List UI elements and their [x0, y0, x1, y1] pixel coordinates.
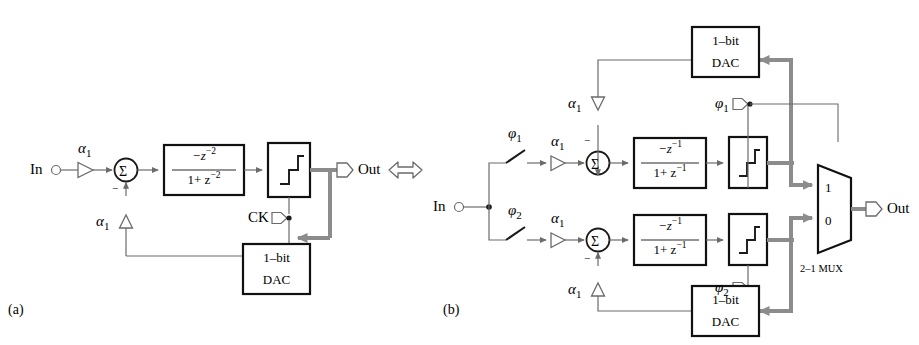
panel-b-feedback-gain-bottom[interactable] [592, 283, 693, 311]
mux-label: 2–1 MUX [800, 258, 843, 276]
panel-b-input-port[interactable] [455, 163, 507, 240]
panel-b-loop-filter-denominator-top: 1+ z−1 [634, 163, 706, 181]
figure-container: In α1 Σ − α1 −z−2 1+ z−2 CK 1–bit DAC Ou… [0, 0, 919, 345]
panel-b-clock-label-top: φ1 [715, 94, 729, 114]
panel-b-dac-label-top-line2: DAC [692, 53, 759, 71]
mux-input-1-label: 1 [825, 178, 832, 196]
panel-b-summing-negative-sign-top: − [584, 130, 590, 148]
panel-a-feedback-gain-label: α1 [96, 212, 109, 232]
panel-b-input-gain-label-bottom: α1 [551, 209, 564, 229]
panel-a-caption: (a) [8, 300, 24, 318]
panel-b-summing-negative-sign-bottom: − [584, 248, 590, 266]
panel-a-quantizer [268, 143, 310, 244]
panel-b-input-gain-top[interactable] [551, 156, 584, 171]
panel-a-input-label: In [30, 160, 43, 178]
panel-a-summing-symbol: Σ [119, 162, 127, 180]
panel-a-loop-filter-numerator: −z−2 [164, 146, 244, 164]
panel-b-input-gain-bottom[interactable] [551, 233, 584, 248]
block-diagram-svg [0, 0, 919, 345]
panel-b-input-gain-label-top: α1 [551, 132, 564, 152]
mux-input-0-label: 0 [825, 211, 832, 229]
panel-a-input-port[interactable] [52, 166, 79, 175]
panel-b-dac-label-top-line1: 1–bit [692, 31, 759, 49]
panel-a-summing-negative-sign: − [112, 178, 118, 196]
panel-b-output-label: Out [887, 199, 910, 217]
panel-b-input-label: In [433, 197, 446, 215]
panel-b-loop-filter-numerator-top: −z−1 [634, 139, 706, 157]
panel-a-dac-label-line1: 1–bit [243, 248, 310, 266]
panel-b-loop-filter-denominator-bottom: 1+ z−1 [634, 240, 706, 258]
equivalence-arrow-icon [389, 162, 422, 178]
panel-a-output-label: Out [358, 160, 381, 178]
panel-b-feedback-gain-label-top: α1 [568, 94, 581, 114]
panel-a-dac-label-line2: DAC [243, 270, 310, 288]
panel-b-switch-label-top: φ1 [508, 124, 522, 144]
panel-b-feedback-gain-top[interactable] [592, 60, 693, 110]
panel-b-quantizer-top [729, 104, 767, 188]
panel-b-clock-port-top[interactable] [733, 99, 838, 143]
panel-b-dac-label-bottom-line1: 1–bit [692, 290, 759, 308]
panel-b-caption: (b) [443, 300, 459, 318]
panel-b-switch-top[interactable] [506, 150, 546, 163]
panel-b-quantizer-bottom [729, 214, 767, 288]
panel-a-loop-filter-denominator: 1+ z−2 [164, 170, 244, 188]
panel-a-output-port[interactable] [337, 163, 353, 177]
panel-b-switch-label-bottom: φ2 [508, 201, 522, 221]
panel-b-dac-label-bottom-line2: DAC [692, 312, 759, 330]
panel-b-feedback-gain-label-bottom: α1 [568, 280, 581, 300]
panel-b [455, 27, 883, 336]
panel-a-input-gain[interactable] [78, 163, 112, 178]
panel-b-loop-filter-numerator-bottom: −z−1 [634, 216, 706, 234]
panel-b-summing-symbol-top: Σ [591, 155, 599, 173]
panel-b-switch-bottom[interactable] [506, 227, 546, 240]
panel-a-clock-label: CK [248, 208, 269, 226]
panel-b-output-port[interactable] [866, 202, 882, 216]
panel-b-summing-symbol-bottom: Σ [591, 232, 599, 250]
panel-a-input-gain-label: α1 [78, 139, 91, 159]
